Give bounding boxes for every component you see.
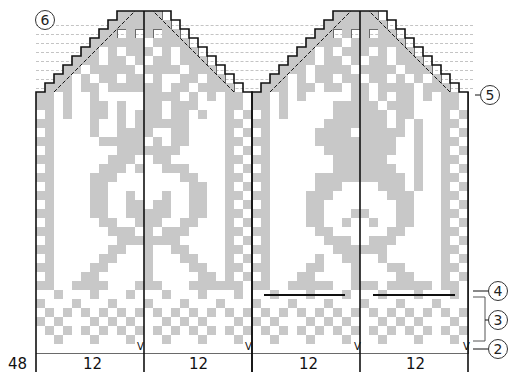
callout-5: 5 bbox=[480, 85, 500, 105]
section-label-3: 12 bbox=[299, 355, 318, 373]
callout-2: 2 bbox=[488, 339, 508, 359]
knitting-chart: 48 12 12 12 12 V V V V 6 5 4 3 2 bbox=[0, 0, 521, 388]
slip-marker-1: V bbox=[137, 342, 144, 352]
section-label-2: 12 bbox=[189, 355, 208, 373]
callout-3: 3 bbox=[488, 310, 508, 330]
chart-outline-overlay bbox=[0, 0, 521, 388]
callout-4: 4 bbox=[488, 281, 508, 301]
slip-marker-4: V bbox=[463, 342, 470, 352]
slip-marker-2: V bbox=[245, 342, 252, 352]
slip-marker-3: V bbox=[354, 342, 361, 352]
stitch-count-label: 48 bbox=[8, 355, 27, 373]
section-label-4: 12 bbox=[406, 355, 425, 373]
callout-6: 6 bbox=[35, 10, 55, 30]
section-label-1: 12 bbox=[83, 355, 102, 373]
